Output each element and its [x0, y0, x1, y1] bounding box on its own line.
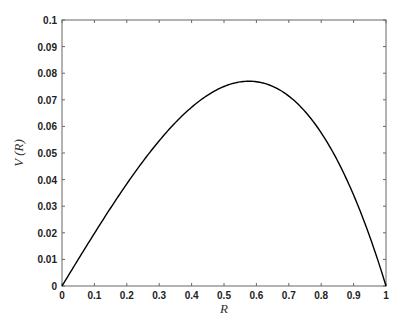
x-tick-label: 0.5 — [217, 290, 231, 301]
x-tick-label: 0.1 — [87, 290, 101, 301]
y-tick-label: 0.01 — [38, 254, 58, 265]
x-tick-label: 1 — [383, 290, 389, 301]
y-tick-label: 0.1 — [43, 15, 57, 26]
x-tick-label: 0 — [59, 290, 65, 301]
y-tick-label: 0.07 — [38, 95, 58, 106]
x-tick-label: 0.9 — [347, 290, 361, 301]
x-tick-label: 0.4 — [185, 290, 199, 301]
y-axis-label: V (R) — [11, 139, 26, 167]
x-tick-label: 0.2 — [120, 290, 134, 301]
y-tick-label: 0.02 — [38, 228, 58, 239]
x-axis-label: R — [219, 301, 228, 316]
x-tick-label: 0.8 — [314, 290, 328, 301]
y-tick-label: 0.08 — [38, 68, 58, 79]
x-tick-label: 0.3 — [152, 290, 166, 301]
x-tick-label: 0.7 — [282, 290, 296, 301]
x-tick-label: 0.6 — [249, 290, 263, 301]
plot-frame — [62, 20, 386, 286]
y-tick-label: 0.04 — [38, 175, 58, 186]
y-tick-label: 0.09 — [38, 42, 58, 53]
y-tick-label: 0 — [51, 281, 57, 292]
y-tick-label: 0.05 — [38, 148, 58, 159]
v-of-r-curve — [62, 81, 386, 286]
y-tick-label: 0.06 — [38, 121, 58, 132]
y-tick-label: 0.03 — [38, 201, 58, 212]
line-chart: 00.10.20.30.40.50.60.70.80.9100.010.020.… — [0, 0, 409, 331]
